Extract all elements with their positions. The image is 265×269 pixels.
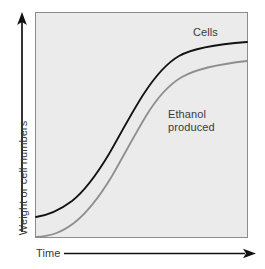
figure-container: Weight or cell numbers Time Cells Ethano…	[0, 0, 265, 269]
y-axis-title: Weight or cell numbers	[17, 121, 29, 236]
x-axis-title: Time	[36, 247, 60, 259]
series-label-ethanol: Ethanol produced	[168, 108, 215, 134]
x-axis-arrow	[64, 249, 256, 259]
y-axis-title-wrapper: Weight or cell numbers	[13, 103, 29, 253]
chart-canvas	[0, 0, 265, 269]
series-label-cells: Cells	[193, 26, 218, 39]
